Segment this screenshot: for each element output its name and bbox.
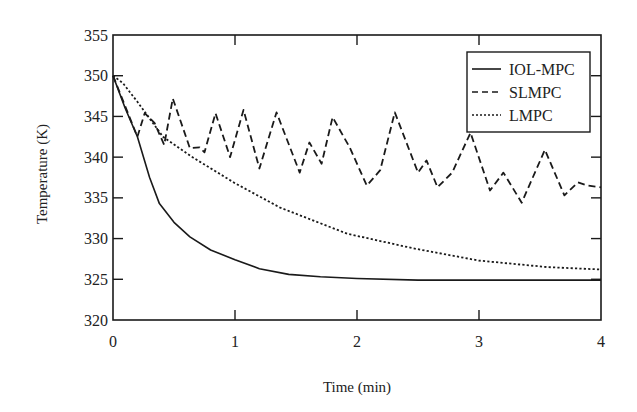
legend-label-iol-mpc: IOL-MPC <box>509 61 575 78</box>
y-tick-label: 320 <box>84 312 108 329</box>
legend: IOL-MPCSLMPCLMPC <box>467 52 590 132</box>
y-axis-label: Temperature (K) <box>34 124 51 224</box>
legend-label-slmpc: SLMPC <box>509 84 561 101</box>
legend-label-lmpc: LMPC <box>509 107 553 124</box>
x-tick-label: 0 <box>109 333 117 350</box>
x-tick-label: 4 <box>597 333 605 350</box>
x-tick-label: 2 <box>353 333 361 350</box>
y-tick-label: 350 <box>84 67 108 84</box>
y-tick-label: 330 <box>84 230 108 247</box>
x-tick-label: 3 <box>475 333 483 350</box>
y-tick-label: 335 <box>84 189 108 206</box>
x-axis-label: Time (min) <box>323 379 391 396</box>
line-chart: 01234320325330335340345350355 Time (min)… <box>0 0 637 412</box>
y-tick-label: 325 <box>84 271 108 288</box>
y-tick-label: 340 <box>84 149 108 166</box>
y-tick-label: 345 <box>84 108 108 125</box>
y-tick-label: 355 <box>84 27 108 44</box>
x-tick-label: 1 <box>231 333 239 350</box>
